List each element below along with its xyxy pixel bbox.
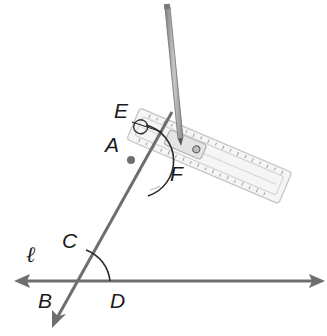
point-a	[127, 156, 135, 164]
construction-svg	[0, 0, 327, 336]
arc-cd	[86, 250, 110, 281]
label-f: F	[170, 163, 183, 184]
label-e: E	[114, 100, 128, 121]
label-line-l: ℓ	[26, 244, 35, 266]
line-l	[14, 274, 325, 288]
label-c: C	[62, 230, 77, 251]
label-a: A	[105, 134, 119, 155]
arc-ef-faint	[150, 186, 160, 190]
diagram-canvas: E A F C ℓ B D	[0, 0, 327, 336]
label-d: D	[110, 290, 125, 311]
label-b: B	[38, 290, 52, 311]
